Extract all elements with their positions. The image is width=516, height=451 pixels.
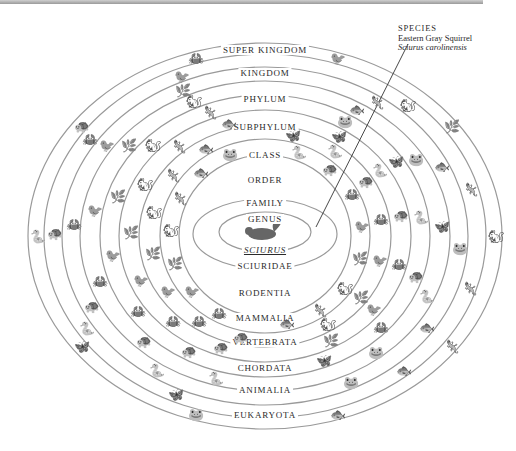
animal-icon: 🐿 <box>320 318 337 331</box>
rank-label-eukaryota: EUKARYOTA <box>232 410 298 420</box>
animal-icon: 🐦 <box>174 70 190 83</box>
animal-icon: 🐦 <box>184 285 200 298</box>
animal-icon: 🐦 <box>99 139 115 152</box>
animal-icon: 🦎 <box>171 140 187 153</box>
animal-icon: 🦎 <box>202 106 218 119</box>
animal-icon: 🐸 <box>452 242 468 255</box>
animal-icon: 🐢 <box>136 335 152 348</box>
rank-label-sciuridae: SCIURIDAE <box>235 261 294 271</box>
animal-icon: 🐟 <box>330 408 346 421</box>
animal-icon: 🦎 <box>165 169 181 182</box>
animal-icon: 🌿 <box>145 247 161 260</box>
animal-icon: 🐟 <box>434 160 450 173</box>
animal-icon: 🐿 <box>400 99 417 112</box>
animal-icon: 🐿 <box>163 224 180 237</box>
animal-icon: 🐢 <box>213 341 229 354</box>
animal-icon: 🐍 <box>30 230 46 243</box>
rank-label-super-kingdom: SUPER KINGDOM <box>221 45 309 55</box>
animal-icon: 🐢 <box>358 175 374 188</box>
animal-icon: 🦀 <box>191 315 207 328</box>
rank-label-order: ORDER <box>246 175 285 185</box>
rank-label-sciurus: SCIURUS <box>242 245 288 255</box>
animal-icon: 🐍 <box>372 164 388 177</box>
animal-icon: 🦋 <box>168 388 184 401</box>
animal-icon: 🐦 <box>372 254 388 267</box>
animal-icon: 🐍 <box>291 146 307 159</box>
animal-icon: 🐸 <box>408 153 424 166</box>
animal-icon: 🌿 <box>444 120 460 133</box>
animal-icon: 🦋 <box>388 155 404 168</box>
animal-icon: 🐦 <box>87 204 103 217</box>
animal-icon: 🦀 <box>344 188 360 201</box>
animal-icon: 🐢 <box>322 163 338 176</box>
animal-icon: 🐍 <box>149 364 165 377</box>
animal-icon: 🐢 <box>47 227 63 240</box>
animal-icon: 🦀 <box>130 305 146 318</box>
animal-icon: 🌿 <box>353 291 369 304</box>
animal-icon: 🦋 <box>434 220 450 233</box>
animal-icon: 🐢 <box>181 345 197 358</box>
rank-label-genus: GENUS <box>246 214 284 224</box>
rank-label-family: FAMILY <box>244 198 286 208</box>
animal-icon: 🌿 <box>110 190 126 203</box>
animal-icon: 🦀 <box>373 213 389 226</box>
animal-icon: 🐿 <box>488 230 505 243</box>
animal-icon: 🦀 <box>188 52 204 65</box>
animal-icon: 🦋 <box>331 130 347 143</box>
animal-icon: 🦎 <box>444 340 460 353</box>
animal-icon: 🌿 <box>167 257 183 270</box>
animal-icon: 🌿 <box>121 139 137 152</box>
animal-icon: 🦎 <box>312 304 328 317</box>
animal-icon: 🐸 <box>188 408 204 421</box>
rank-label-phylum: PHYLUM <box>242 94 289 104</box>
animal-icon: 🐢 <box>84 300 100 313</box>
animal-icon: 🐦 <box>354 220 370 233</box>
animal-icon: 🌿 <box>123 226 139 239</box>
rank-label-animalia: ANIMALIA <box>237 385 293 395</box>
animal-icon: 🐦 <box>133 274 149 287</box>
animal-icon: 🦀 <box>211 307 227 320</box>
animal-icon: 🦎 <box>172 192 188 205</box>
animal-icon: 🦎 <box>462 282 478 295</box>
animal-icon: 🐟 <box>193 166 209 179</box>
species-scientific-name: Sciurus carolinensis <box>398 43 472 53</box>
animal-icon: 🐿 <box>146 206 163 219</box>
animal-icon: 🦋 <box>74 340 90 353</box>
animal-icon: 🐦 <box>105 249 121 262</box>
animal-icon: 🐸 <box>222 148 238 161</box>
animal-icon: 🦀 <box>391 258 407 271</box>
animal-icon: 🐦 <box>160 285 176 298</box>
animal-icon: 🦀 <box>165 315 181 328</box>
animal-icon: 🐢 <box>74 120 90 133</box>
animal-icon: 🐟 <box>279 317 295 330</box>
animal-icon: 🦎 <box>463 183 479 196</box>
animal-icon: 🦀 <box>66 218 82 231</box>
rank-label-kingdom: KINGDOM <box>238 68 291 78</box>
animal-icon: 🐟 <box>419 321 435 334</box>
animal-icon: 🌿 <box>352 252 368 265</box>
rank-label-rodentia: RODENTIA <box>237 288 293 298</box>
animal-icon: 🦀 <box>92 275 108 288</box>
animal-icon: 🐍 <box>79 322 95 335</box>
animal-icon: 🐟 <box>198 142 214 155</box>
animal-icon: 🐦 <box>330 52 346 65</box>
animal-icon: 🐟 <box>221 117 237 130</box>
animal-icon: 🐟 <box>396 364 412 377</box>
animal-icon: 🦀 <box>373 321 389 334</box>
animal-icon: 🌿 <box>323 334 339 347</box>
animal-icon: 🐍 <box>413 211 429 224</box>
species-callout: SPECIES Eastern Gray Squirrel Sciurus ca… <box>398 24 472 53</box>
animal-icon: 🦋 <box>316 354 332 367</box>
animal-icon: 🐸 <box>368 346 384 359</box>
animal-icon: 🐸 <box>337 115 353 128</box>
animal-icon: 🐸 <box>343 376 359 389</box>
animal-icon: 🐿 <box>186 95 203 108</box>
animal-icon: 🦋 <box>285 129 301 142</box>
animal-icon: 🐢 <box>233 331 249 344</box>
rank-label-chordata: CHORDATA <box>236 363 295 373</box>
animal-icon: 🐍 <box>327 145 343 158</box>
rank-label-class: CLASS <box>247 150 283 160</box>
animal-icon: 🐿 <box>145 139 162 152</box>
animal-icon: 🐿 <box>137 178 154 191</box>
animal-icon: 🐿 <box>337 282 354 295</box>
